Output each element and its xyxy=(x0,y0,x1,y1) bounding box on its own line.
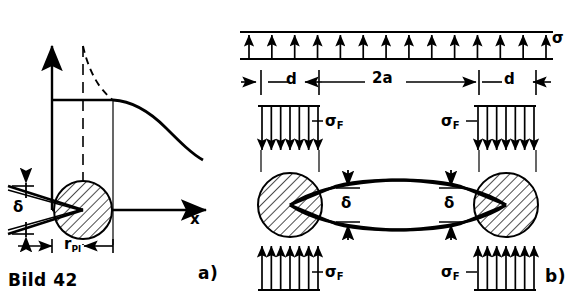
sigmaF-base-bl: σ xyxy=(325,263,337,281)
panel-a-delta-label: δ xyxy=(13,200,23,215)
sigmaF-sub-tr: F xyxy=(453,120,460,131)
figure-background xyxy=(0,0,576,303)
panel-b-sigmaF-label-top-right: σF xyxy=(441,114,460,129)
panel-b-dim-d-right-label: d xyxy=(504,72,515,87)
sigmaF-base-tl: σ xyxy=(325,112,337,130)
panel-b-dim-2a-label: 2a xyxy=(372,71,393,86)
panel-a-plastic-radius-label: rPl xyxy=(64,237,81,252)
panel-b-applied-stress-label: σ xyxy=(552,31,564,46)
panel-b-delta-right-label: δ xyxy=(444,196,454,211)
panel-a-rpl-sub: Pl xyxy=(71,244,81,254)
panel-a-label: a) xyxy=(198,265,218,282)
sigmaF-sub-tl: F xyxy=(337,120,344,131)
sigmaF-base-tr: σ xyxy=(441,112,453,130)
panel-b-delta-left-label: δ xyxy=(341,196,351,211)
sigmaF-base-br: σ xyxy=(441,263,453,281)
technical-figure xyxy=(0,0,576,303)
sigmaF-sub-bl: F xyxy=(337,271,344,282)
panel-a-x-axis-label: x xyxy=(190,212,200,227)
panel-b-label: b) xyxy=(545,268,566,285)
panel-b-sigmaF-label-bottom-right: σF xyxy=(441,265,460,280)
figure-caption: Bild 42 xyxy=(8,272,78,289)
panel-b-dim-d-left-label: d xyxy=(286,72,297,87)
sigmaF-sub-br: F xyxy=(453,271,460,282)
panel-b-sigmaF-label-bottom-left: σF xyxy=(325,265,344,280)
panel-b-sigmaF-label-top-left: σF xyxy=(325,114,344,129)
